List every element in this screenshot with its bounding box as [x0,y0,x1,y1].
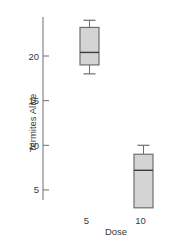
box-10 [134,145,153,208]
box-plot-series [80,20,153,208]
x-tick-label: 10 [135,215,146,226]
y-tick-label: 5 [34,184,39,195]
iqr-box [134,154,153,208]
y-tick-label: 20 [28,51,39,62]
x-axis: 510 [84,215,146,226]
box-5 [80,20,99,74]
box-plot-chart: 5101520 510 Termites Alive Dose [0,0,170,247]
x-axis-title: Dose [105,226,127,237]
x-tick-label: 5 [84,215,89,226]
iqr-box [80,27,99,65]
y-axis-title: Termites Alive [27,94,38,153]
